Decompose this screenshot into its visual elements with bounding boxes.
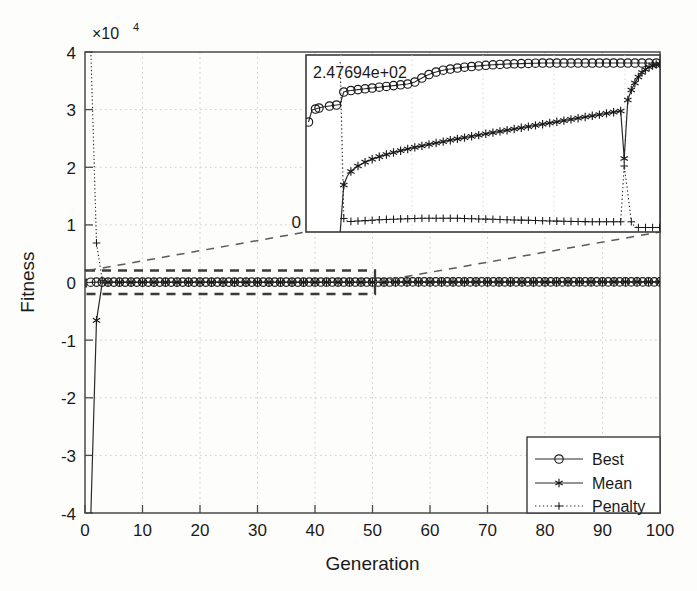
figure-canvas: 0 10 20 30 40 50 60 70 80 90 100 -4 -3 -…: [0, 0, 697, 591]
y-exponent-base: ×10: [92, 25, 119, 42]
ytick-label: 2: [67, 159, 76, 178]
xtick-label: 30: [248, 521, 267, 540]
y-axis-label: Fitness: [17, 251, 38, 312]
inset-axes: 2.47694e+02 0: [292, 55, 667, 232]
xtick-label: 80: [536, 521, 555, 540]
xtick-label: 90: [593, 521, 612, 540]
xtick-label: 70: [478, 521, 497, 540]
xtick-label: 100: [646, 521, 674, 540]
ytick-label: 4: [67, 44, 76, 63]
ytick-label: -3: [61, 447, 76, 466]
x-axis-label: Generation: [325, 553, 419, 574]
ytick-label: 3: [67, 101, 76, 120]
ytick-label: -2: [61, 389, 76, 408]
y-exponent-power: 4: [133, 21, 139, 33]
ytick-label: -4: [61, 505, 76, 524]
inset-ytick-label-zero: 0: [292, 213, 301, 232]
xtick-label: 40: [306, 521, 325, 540]
fitness-evolution-figure: 0 10 20 30 40 50 60 70 80 90 100 -4 -3 -…: [0, 0, 697, 591]
ytick-label: -1: [61, 332, 76, 351]
legend-label-best: Best: [592, 451, 625, 468]
xtick-label: 60: [421, 521, 440, 540]
legend-label-mean: Mean: [592, 475, 632, 492]
legend-label-penalty: Penalty: [592, 498, 645, 515]
ytick-label: 1: [67, 216, 76, 235]
mean-main-flat-markers: [104, 278, 663, 287]
ytick-label: 0: [67, 274, 76, 293]
xtick-label: 0: [80, 521, 89, 540]
xtick-label: 50: [363, 521, 382, 540]
legend[interactable]: Best Mean Penalty: [527, 437, 660, 515]
xtick-label: 10: [133, 521, 152, 540]
inset-scale-annotation: 2.47694e+02: [313, 64, 407, 81]
xtick-label: 20: [191, 521, 210, 540]
